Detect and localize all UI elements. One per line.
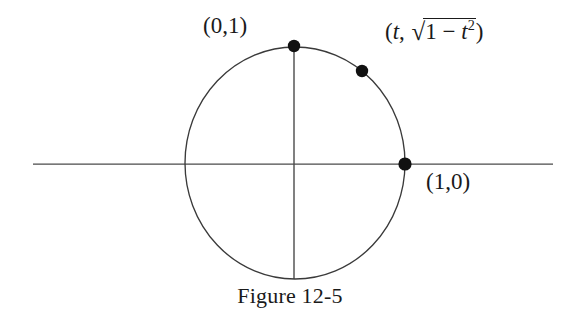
unit-circle-diagram xyxy=(0,0,580,313)
arc-label-close-paren: ) xyxy=(476,19,484,44)
arc-label-open-paren: ( xyxy=(385,19,393,44)
point-marker-right xyxy=(398,157,411,170)
point-label-top: (0,1) xyxy=(203,14,247,37)
point-label-right: (1,0) xyxy=(426,170,470,193)
point-label-arc: (t, √1 − t2) xyxy=(385,18,483,43)
figure-caption: Figure 12-5 xyxy=(0,283,580,309)
radicand-lead: 1 − xyxy=(425,19,461,44)
figure-container: (0,1) (1,0) (t, √1 − t2) Figure 12-5 xyxy=(0,0,580,313)
unit-circle xyxy=(185,47,405,279)
point-marker-arc xyxy=(356,65,368,77)
point-marker-top xyxy=(288,40,300,52)
radicand-exponent: 2 xyxy=(468,17,475,33)
radicand: 1 − t2 xyxy=(423,18,476,43)
arc-label-comma: , xyxy=(399,19,411,44)
square-root-expression: √1 − t2 xyxy=(411,18,476,43)
